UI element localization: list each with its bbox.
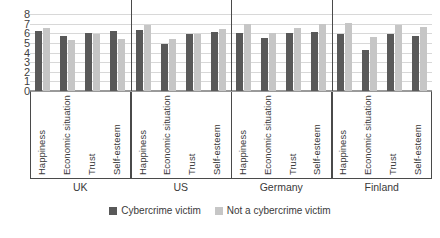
legend-label: Not a cybercrime victim (227, 205, 331, 217)
measure-cluster (105, 14, 130, 91)
bar[interactable] (387, 34, 394, 91)
category-label-cell: Self-esteem (406, 92, 431, 178)
bar[interactable] (269, 33, 276, 91)
bar[interactable] (93, 34, 100, 91)
bar[interactable] (118, 39, 125, 91)
bar[interactable] (311, 32, 318, 91)
bar[interactable] (60, 36, 67, 91)
bar[interactable] (412, 36, 419, 91)
category-label-cell: Happiness (131, 92, 156, 178)
bar-group (332, 14, 433, 91)
category-label-group: HappinessEconomic situationTrustSelf-est… (31, 92, 130, 178)
measure-cluster (281, 14, 306, 91)
category-label: Happiness (37, 130, 47, 175)
bar[interactable] (236, 33, 243, 91)
bar[interactable] (35, 31, 42, 91)
category-label-cell: Happiness (332, 92, 357, 178)
measure-cluster (206, 14, 231, 91)
category-label: Happiness (138, 130, 148, 175)
measure-cluster (55, 14, 80, 91)
legend-swatch-icon (109, 207, 117, 215)
category-label-cell: Economic situation (357, 92, 382, 178)
category-label: Happiness (238, 130, 248, 175)
bar[interactable] (395, 25, 402, 91)
bar[interactable] (110, 31, 117, 91)
bar[interactable] (286, 33, 293, 91)
category-label: Trust (187, 154, 197, 175)
category-label: Self-esteem (413, 124, 423, 175)
bar[interactable] (362, 50, 369, 91)
bar[interactable] (136, 30, 143, 91)
bar[interactable] (244, 24, 251, 91)
y-axis-tick-label: 0 (8, 87, 30, 96)
bar[interactable] (420, 27, 427, 91)
bar[interactable] (68, 40, 75, 91)
y-axis: 876543210 (8, 10, 30, 92)
bar[interactable] (169, 39, 176, 91)
category-label: Trust (388, 154, 398, 175)
measure-cluster (181, 14, 206, 91)
category-label: Self-esteem (112, 124, 122, 175)
bar[interactable] (211, 32, 218, 91)
measure-cluster (306, 14, 331, 91)
grouped-bar-chart: 876543210 HappinessEconomic situationTru… (0, 0, 440, 238)
category-label-cell: Self-esteem (105, 92, 130, 178)
measure-cluster (156, 14, 181, 91)
bar-group (231, 14, 332, 91)
legend-item[interactable]: Not a cybercrime victim (215, 205, 331, 217)
measure-cluster (80, 14, 105, 91)
measure-cluster (407, 14, 432, 91)
bar[interactable] (194, 34, 201, 91)
category-label-cell: Self-esteem (206, 92, 231, 178)
bar[interactable] (370, 37, 377, 91)
category-label: Economic situation (263, 95, 273, 175)
plot-area (30, 14, 432, 91)
bar[interactable] (186, 34, 193, 91)
category-label: Trust (87, 154, 97, 175)
bar[interactable] (319, 24, 326, 91)
group-label: US (131, 180, 232, 196)
category-label-group: HappinessEconomic situationTrustSelf-est… (331, 92, 431, 178)
measure-cluster (357, 14, 382, 91)
bar-group (131, 14, 232, 91)
bar[interactable] (144, 25, 151, 91)
category-label-group: HappinessEconomic situationTrustSelf-est… (231, 92, 331, 178)
measure-cluster (332, 14, 357, 91)
measure-cluster (382, 14, 407, 91)
bar[interactable] (294, 28, 301, 91)
bar[interactable] (345, 23, 352, 91)
category-label-cell: Trust (381, 92, 406, 178)
category-label: Self-esteem (312, 124, 322, 175)
category-label-group: HappinessEconomic situationTrustSelf-est… (130, 92, 230, 178)
category-label-cell: Happiness (31, 92, 56, 178)
measure-cluster (256, 14, 281, 91)
legend-label: Cybercrime victim (121, 205, 200, 217)
plot-wrapper: 876543210 (0, 0, 440, 96)
category-label-cell: Trust (81, 92, 106, 178)
category-label: Trust (288, 154, 298, 175)
measure-cluster (231, 14, 256, 91)
bar[interactable] (219, 29, 226, 91)
category-labels-band: HappinessEconomic situationTrustSelf-est… (30, 91, 432, 179)
category-label-cell: Trust (281, 92, 306, 178)
bar[interactable] (161, 44, 168, 91)
category-label: Happiness (338, 130, 348, 175)
chart-legend: Cybercrime victimNot a cybercrime victim (0, 205, 440, 217)
category-label: Economic situation (62, 95, 72, 175)
measure-cluster (131, 14, 156, 91)
bar[interactable] (85, 33, 92, 91)
legend-item[interactable]: Cybercrime victim (109, 205, 200, 217)
category-label-cell: Trust (181, 92, 206, 178)
category-label-cell: Self-esteem (306, 92, 331, 178)
category-label-cell: Economic situation (56, 92, 81, 178)
category-label: Self-esteem (212, 124, 222, 175)
bar[interactable] (337, 34, 344, 91)
bar[interactable] (261, 38, 268, 91)
group-labels-band: UKUSGermanyFinland (30, 180, 432, 196)
group-label: Finland (332, 180, 433, 196)
bar[interactable] (43, 28, 50, 91)
category-label: Economic situation (162, 95, 172, 175)
group-label: UK (30, 180, 131, 196)
group-label: Germany (231, 180, 332, 196)
category-label: Economic situation (363, 95, 373, 175)
